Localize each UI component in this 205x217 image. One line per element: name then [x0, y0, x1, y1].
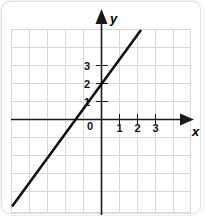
origin-label: 0	[84, 121, 96, 132]
y-axis-label: y	[110, 12, 117, 25]
graph-figure: y x 0 1 2 3 1 2 3	[0, 0, 205, 217]
y-axis-arrowhead	[96, 9, 108, 24]
y-tick-label-2: 2	[81, 79, 93, 90]
y-tick-label-1: 1	[81, 97, 93, 108]
data-line	[12, 30, 141, 207]
axis-lines	[11, 22, 182, 215]
y-tick-label-3: 3	[81, 61, 93, 72]
x-tick-label-3: 3	[149, 123, 162, 134]
x-tick-label-2: 2	[131, 123, 144, 134]
x-axis-label: x	[192, 125, 199, 138]
coordinate-plane-svg	[0, 0, 205, 217]
x-tick-label-1: 1	[113, 123, 126, 134]
